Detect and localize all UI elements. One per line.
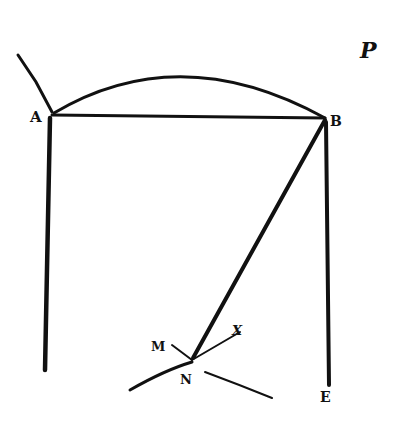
line-mn	[172, 345, 192, 360]
label-a: A	[29, 108, 42, 126]
vertical-line-be	[326, 122, 329, 385]
label-e: E	[320, 389, 331, 405]
line-bn	[193, 120, 325, 358]
label-m: M	[151, 339, 165, 354]
vertical-line-a	[45, 118, 50, 370]
label-x: X	[231, 323, 243, 338]
curve-through-n-right	[205, 372, 272, 398]
arc-ab	[54, 77, 325, 118]
label-n: N	[180, 372, 192, 387]
geometric-diagram: A B E M N X P	[0, 0, 405, 430]
chord-ab	[52, 115, 325, 118]
label-b: B	[330, 113, 342, 129]
tangent-stroke-a	[18, 55, 52, 112]
label-p: P	[359, 37, 378, 63]
